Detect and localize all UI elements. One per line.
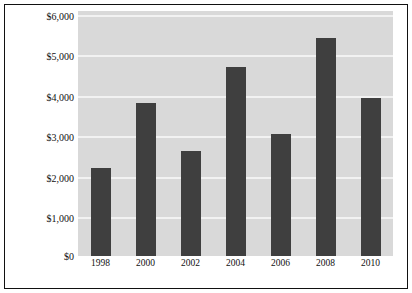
bar[interactable]	[136, 103, 156, 256]
y-tick-label: $6,000	[47, 11, 75, 22]
bar[interactable]	[91, 168, 111, 256]
bar-slot	[168, 11, 213, 256]
y-tick-label: $4,000	[47, 92, 75, 103]
x-tick-label: 2010	[348, 258, 393, 276]
y-tick-label: $0	[64, 251, 74, 262]
y-tick-label: $1,000	[47, 213, 75, 224]
x-tick-label: 2002	[168, 258, 213, 276]
y-tick-label: $2,000	[47, 173, 75, 184]
bar[interactable]	[316, 38, 336, 256]
y-axis-tick-labels: $6,000 $5,000 $4,000 $3,000 $2,000 $1,00…	[24, 11, 78, 262]
bar[interactable]	[226, 67, 246, 256]
bar[interactable]	[271, 134, 291, 257]
bar-slot	[303, 11, 348, 256]
bar-slot	[348, 11, 393, 256]
x-tick-label: 2000	[123, 258, 168, 276]
bar-slot	[78, 11, 123, 256]
plot-area	[78, 11, 393, 256]
bar-slot	[213, 11, 258, 256]
bar[interactable]	[181, 151, 201, 256]
x-axis-tick-labels: 1998 2000 2002 2004 2006 2008 2010	[78, 258, 393, 276]
bar-slot	[123, 11, 168, 256]
y-tick-label: $3,000	[47, 132, 75, 143]
x-tick-label: 2004	[213, 258, 258, 276]
bar-slot	[258, 11, 303, 256]
x-tick-label: 2006	[258, 258, 303, 276]
bar-series	[78, 11, 393, 256]
x-tick-label: 2008	[303, 258, 348, 276]
bar[interactable]	[361, 98, 381, 256]
x-tick-label: 1998	[78, 258, 123, 276]
bar-chart-figure: SPENDING (MILLIONS) $6,000 $5,000 $4,000…	[0, 0, 412, 293]
y-tick-label: $5,000	[47, 51, 75, 62]
